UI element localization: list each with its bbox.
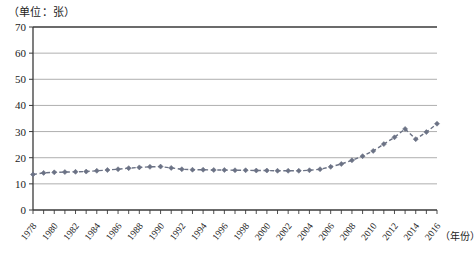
svg-text:1980: 1980 [40, 221, 60, 242]
svg-text:10: 10 [15, 178, 27, 190]
svg-text:1994: 1994 [189, 221, 209, 242]
svg-text:1978: 1978 [19, 221, 39, 242]
line-chart: （单位：张） 010203040506070 19781980198219841… [0, 0, 476, 265]
svg-text:2010: 2010 [359, 221, 379, 242]
svg-text:1988: 1988 [125, 221, 145, 242]
svg-text:2006: 2006 [317, 221, 337, 242]
svg-text:1998: 1998 [232, 221, 252, 242]
svg-text:1984: 1984 [83, 221, 103, 242]
svg-text:1990: 1990 [147, 221, 167, 242]
svg-text:2012: 2012 [380, 221, 400, 242]
svg-text:20: 20 [15, 152, 27, 164]
svg-text:0: 0 [21, 204, 27, 216]
data-point-markers-group [31, 121, 440, 177]
svg-text:60: 60 [15, 47, 27, 59]
x-axis-label: （年份） [440, 228, 476, 243]
svg-text:2000: 2000 [253, 221, 273, 242]
svg-text:2002: 2002 [274, 221, 294, 242]
svg-text:1992: 1992 [168, 221, 188, 242]
svg-text:1982: 1982 [62, 221, 82, 242]
y-axis-ticks-group: 010203040506070 [15, 21, 33, 216]
svg-text:40: 40 [15, 99, 27, 111]
svg-text:2004: 2004 [295, 221, 315, 242]
svg-text:70: 70 [15, 21, 27, 33]
gridlines-group [33, 27, 437, 184]
svg-text:30: 30 [15, 126, 27, 138]
x-axis-labels-group: 1978198019821984198619881990199219941996… [19, 221, 443, 242]
chart-plot-area: 010203040506070 197819801982198419861988… [0, 0, 476, 265]
svg-text:1996: 1996 [210, 221, 230, 242]
svg-text:50: 50 [15, 73, 27, 85]
svg-text:2014: 2014 [402, 221, 422, 242]
svg-text:2008: 2008 [338, 221, 358, 242]
svg-text:1986: 1986 [104, 221, 124, 242]
